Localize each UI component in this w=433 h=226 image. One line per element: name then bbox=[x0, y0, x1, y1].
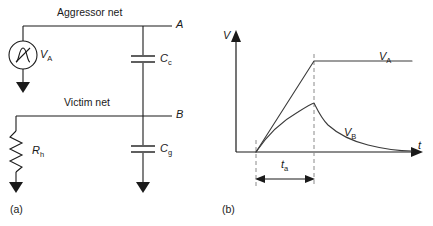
aggressor-net-title: Aggressor net bbox=[57, 7, 122, 18]
coupling-cap-label-sub: c bbox=[168, 58, 172, 67]
crosstalk-figure: Aggressor net Victim net A B VA Rh Cc Cg… bbox=[0, 0, 433, 226]
curve-va-label-sub: A bbox=[386, 56, 391, 65]
curve-vb bbox=[256, 103, 412, 152]
ground-symbol-resistor bbox=[9, 182, 23, 193]
coupling-cap-label: Cc bbox=[160, 53, 172, 64]
curve-vb-label: VB bbox=[344, 127, 356, 138]
resistor-label: Rh bbox=[32, 145, 44, 156]
ground-cap-label: Cg bbox=[160, 143, 172, 154]
coupling-cap-label-main: C bbox=[160, 52, 168, 64]
x-axis-label: t bbox=[418, 140, 421, 151]
circuit-schematic-panel bbox=[0, 0, 216, 226]
curve-vb-label-sub: B bbox=[351, 132, 356, 141]
resistor-label-main: R bbox=[32, 144, 40, 156]
panel-b-caption: (b) bbox=[222, 204, 235, 215]
y-axis-arrowhead bbox=[231, 30, 241, 42]
resistor-zigzag bbox=[10, 131, 22, 172]
resistor-label-sub: h bbox=[40, 150, 44, 159]
ground-cap-label-main: C bbox=[160, 142, 168, 154]
waveform-plot-panel bbox=[216, 0, 433, 226]
curve-va bbox=[256, 61, 412, 152]
ta-interval-label: ta bbox=[281, 159, 288, 170]
ground-symbol-source bbox=[16, 82, 30, 93]
y-axis-label: V bbox=[223, 30, 230, 41]
node-b-label: B bbox=[176, 109, 183, 120]
ground-cap-label-sub: g bbox=[168, 148, 172, 157]
victim-net-title: Victim net bbox=[64, 97, 110, 108]
x-axis-arrowhead bbox=[411, 147, 423, 157]
panel-a-caption: (a) bbox=[10, 204, 23, 215]
ta-interval-label-sub: a bbox=[284, 164, 288, 173]
node-a-label: A bbox=[176, 19, 183, 30]
curve-va-label: VA bbox=[379, 51, 391, 62]
source-label-sub: A bbox=[47, 54, 52, 63]
source-label: VA bbox=[40, 49, 52, 60]
ground-symbol-cap bbox=[136, 182, 150, 193]
